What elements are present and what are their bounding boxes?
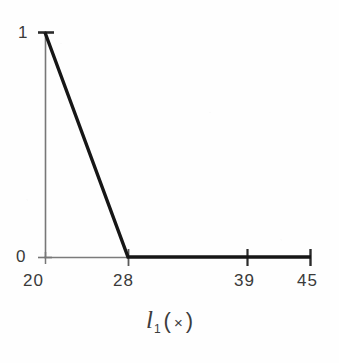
x-axis-label-subscript: 1 xyxy=(154,322,164,336)
x-axis-label-variable: × xyxy=(171,314,186,331)
y-tick-label-0: 0 xyxy=(16,248,26,265)
x-tick-label-20: 20 xyxy=(23,272,44,289)
y-tick-label-1: 1 xyxy=(18,24,28,41)
x-axis-label-close-paren: ) xyxy=(186,308,193,333)
x-axis-label: l1(×) xyxy=(0,306,339,336)
x-axis-label-symbol: l xyxy=(146,306,154,333)
x-tick-label-45: 45 xyxy=(297,272,318,289)
chart-figure: 1 0 20 28 39 45 l1(×) xyxy=(0,0,339,363)
x-tick-label-28: 28 xyxy=(113,272,134,289)
x-axis-label-open-paren: ( xyxy=(164,308,171,333)
membership-line-series xyxy=(45,33,311,258)
x-tick-label-39: 39 xyxy=(234,272,255,289)
